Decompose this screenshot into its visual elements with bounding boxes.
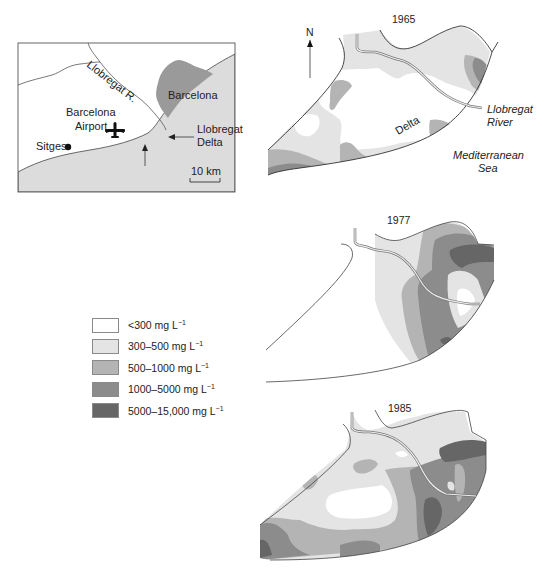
legend-swatch-1000-5000 — [92, 382, 119, 397]
concentration-legend: <300 mg L−1 300–500 mg L−1 500–1000 mg L… — [92, 317, 224, 424]
map-panel-1985: 1985 — [0, 0, 551, 573]
legend-swatch-lt300 — [92, 318, 119, 333]
legend-swatch-500-1000 — [92, 360, 119, 375]
legend-label: 300–500 mg L−1 — [128, 340, 203, 352]
legend-item-1000-5000: 1000–5000 mg L−1 — [92, 381, 224, 397]
legend-swatch-5000-15000 — [92, 403, 119, 418]
legend-swatch-300-500 — [92, 339, 119, 354]
legend-label: 500–1000 mg L−1 — [128, 362, 209, 374]
legend-label: 5000–15,000 mg L−1 — [128, 405, 224, 417]
legend-item-500-1000: 500–1000 mg L−1 — [92, 360, 224, 376]
legend-item-300-500: 300–500 mg L−1 — [92, 338, 224, 354]
legend-label: 1000–5000 mg L−1 — [128, 383, 215, 395]
legend-item-lt300: <300 mg L−1 — [92, 317, 224, 333]
legend-item-5000-15000: 5000–15,000 mg L−1 — [92, 403, 224, 419]
year-label-1985: 1985 — [388, 402, 412, 414]
legend-label: <300 mg L−1 — [128, 319, 186, 331]
